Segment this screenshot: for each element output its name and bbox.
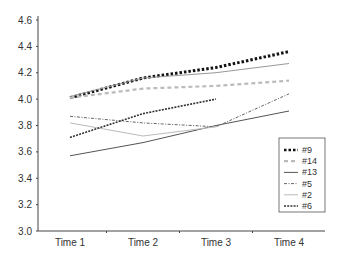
y-tick-label: 4.6 <box>18 15 32 26</box>
legend-label: #6 <box>302 201 312 211</box>
y-tick-label: 3.6 <box>18 146 32 157</box>
y-tick-label: 3.0 <box>18 226 32 237</box>
series-line-13 <box>70 111 289 156</box>
series-line-9 <box>70 52 289 98</box>
series-lines <box>70 52 289 156</box>
legend-label: #2 <box>302 190 312 200</box>
y-axis: 3.03.23.43.63.84.04.24.44.6 <box>18 15 38 237</box>
legend-label: #9 <box>302 145 312 155</box>
x-tick-label: Time 3 <box>201 237 232 248</box>
legend-label: #14 <box>302 156 317 166</box>
legend-label: #13 <box>302 167 317 177</box>
y-tick-label: 4.0 <box>18 94 32 105</box>
y-tick-label: 4.4 <box>18 41 32 52</box>
legend-label: #5 <box>302 179 312 189</box>
x-tick-label: Time 1 <box>55 237 86 248</box>
legend: #9#14#13#5#2#6 <box>279 138 325 212</box>
y-tick-label: 4.2 <box>18 67 32 78</box>
line-chart: 3.03.23.43.63.84.04.24.44.6 Time 1Time 2… <box>0 0 342 257</box>
x-tick-label: Time 2 <box>128 237 159 248</box>
y-tick-label: 3.4 <box>18 173 32 184</box>
series-line-unlabeled <box>70 64 289 97</box>
y-tick-label: 3.8 <box>18 120 32 131</box>
x-tick-label: Time 4 <box>274 237 305 248</box>
x-axis: Time 1Time 2Time 3Time 4 <box>38 231 325 248</box>
series-line-5 <box>70 94 289 127</box>
y-tick-label: 3.2 <box>18 199 32 210</box>
